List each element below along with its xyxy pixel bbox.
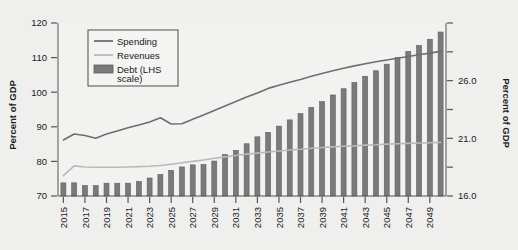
x-tick-label-2045: 2045 [381,207,392,228]
x-tick-label-2029: 2029 [209,207,220,228]
left-tick-label-90: 90 [36,121,47,132]
bar-2022 [136,181,141,196]
bar-2037 [298,114,303,196]
left-tick-label-100: 100 [31,87,47,98]
bar-2038 [309,107,314,196]
bar-2040 [330,95,335,196]
bar-2044 [373,71,378,196]
right-tick-label-21: 21.0 [458,133,477,144]
bar-2026 [179,167,184,196]
bar-2039 [320,102,325,196]
bar-2046 [395,58,400,196]
chart-container: 708090100110120 16.021.026.0 20152017201… [0,0,518,250]
legend-label-spending: Spending [117,36,157,47]
x-tick-label-2017: 2017 [80,207,91,228]
bar-2029 [212,161,217,196]
bar-2045 [384,64,389,196]
bar-2017 [82,186,87,196]
bar-2035 [276,126,281,196]
bar-2016 [72,183,77,196]
bar-2015 [61,183,66,196]
bar-2050 [438,32,443,196]
x-tick-label-2031: 2031 [230,207,241,228]
legend-swatch-debt [94,65,113,73]
bar-2048 [417,45,422,196]
bar-2033 [255,137,260,196]
x-tick-label-2015: 2015 [58,207,69,228]
x-tick-label-2041: 2041 [338,207,349,228]
bar-2024 [158,175,163,196]
x-tick-label-2043: 2043 [360,207,371,228]
gdp-debt-chart: 708090100110120 16.021.026.0 20152017201… [0,0,518,250]
x-tick-label-2021: 2021 [123,207,134,228]
bar-2027 [190,165,195,196]
bar-2031 [233,150,238,196]
x-tick-label-2049: 2049 [424,207,435,228]
bar-2036 [287,120,292,196]
bar-2049 [427,39,432,196]
x-tick-label-2027: 2027 [187,207,198,228]
x-tick-label-2023: 2023 [144,207,155,228]
right-tick-label-16: 16.0 [458,190,477,201]
bar-2030 [223,154,228,196]
bar-2021 [126,183,131,196]
legend-label-revenues: Revenues [117,50,160,61]
x-tick-label-2033: 2033 [252,207,263,228]
bar-2032 [244,144,249,196]
bar-2018 [93,186,98,196]
left-tick-label-70: 70 [36,190,47,201]
bar-2019 [104,183,109,196]
bar-2041 [341,89,346,196]
x-tick-label-2019: 2019 [101,207,112,228]
bar-2034 [266,132,271,196]
x-tick-label-2025: 2025 [166,207,177,228]
legend: SpendingRevenuesDebt (LHSscale) [88,30,178,86]
bar-2042 [352,83,357,196]
x-tick-label-2035: 2035 [274,207,285,228]
x-tick-label-2037: 2037 [295,207,306,228]
left-tick-label-120: 120 [31,17,47,28]
bar-2025 [169,170,174,196]
right-tick-label-26: 26.0 [458,75,477,86]
bar-2020 [115,183,120,196]
bar-2047 [406,51,411,196]
left-tick-label-80: 80 [36,156,47,167]
x-tick-label-2047: 2047 [403,207,414,228]
y-axis-label-left: Percent of GDP [7,79,18,149]
y-axis-label-right: Percent of GDP [501,78,512,148]
bar-2028 [201,165,206,196]
x-tick-label-2039: 2039 [317,207,328,228]
legend-label-debt-line2: scale) [117,73,142,84]
left-tick-label-110: 110 [32,52,47,63]
bar-2043 [363,76,368,196]
bar-2023 [147,178,152,196]
